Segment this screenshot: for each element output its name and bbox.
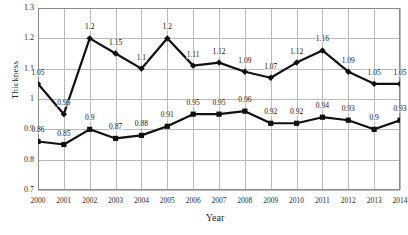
data-point-label: 1.15 bbox=[109, 39, 123, 47]
data-point-label: 0.91 bbox=[160, 111, 174, 119]
data-point-label: 0.92 bbox=[290, 108, 304, 116]
x-axis-tick-label: 2014 bbox=[393, 197, 408, 205]
data-point-label: 0.88 bbox=[134, 120, 148, 128]
y-axis-tick-label: 1 bbox=[30, 95, 34, 103]
data-point-label: 1.16 bbox=[315, 35, 329, 43]
thickness-by-year-line-chart: Thickness 0.70.80.911.11.21.320002001200… bbox=[0, 0, 408, 235]
x-axis-tick-label: 2000 bbox=[31, 197, 46, 205]
x-axis-tick-label: 2009 bbox=[263, 197, 278, 205]
data-point-label: 1.2 bbox=[162, 23, 172, 31]
data-point-label: 1.05 bbox=[393, 69, 407, 77]
data-point-label: 1.1 bbox=[136, 54, 146, 62]
data-point-label: 0.87 bbox=[109, 123, 123, 131]
data-point-label: 0.95 bbox=[186, 99, 200, 107]
data-point-label: 1.05 bbox=[31, 69, 45, 77]
data-point-label: 0.92 bbox=[264, 108, 278, 116]
y-axis-tick-label: 0.8 bbox=[24, 156, 34, 164]
data-point-label: 1.05 bbox=[367, 69, 381, 77]
data-point-label: 0.95 bbox=[212, 99, 226, 107]
x-axis-tick-label: 2013 bbox=[367, 197, 382, 205]
x-axis-tick-label: 2004 bbox=[134, 197, 149, 205]
data-point-label: 1.12 bbox=[290, 48, 304, 56]
plot-area: 0.70.80.911.11.21.3200020012002200320042… bbox=[38, 8, 400, 190]
data-point-label: 1.09 bbox=[238, 57, 252, 65]
x-axis-tick-label: 2008 bbox=[237, 197, 252, 205]
y-axis-tick-label: 1.2 bbox=[24, 34, 34, 42]
data-point-label: 0.93 bbox=[341, 105, 355, 113]
x-axis-tick-label: 2011 bbox=[315, 197, 330, 205]
y-axis-tick-label: 1.3 bbox=[24, 4, 34, 12]
data-point-label: 0.95 bbox=[57, 99, 71, 107]
gridline-horizontal bbox=[38, 190, 400, 191]
x-axis-tick-label: 2007 bbox=[212, 197, 227, 205]
data-point-label: 1.2 bbox=[85, 23, 95, 31]
data-point-label: 0.9 bbox=[85, 114, 95, 122]
data-point-label: 0.9 bbox=[369, 114, 379, 122]
x-axis-tick-label: 2003 bbox=[108, 197, 123, 205]
data-point-label: 1.12 bbox=[212, 48, 226, 56]
data-point-label: 0.93 bbox=[393, 105, 407, 113]
x-axis-tick-label: 2001 bbox=[56, 197, 71, 205]
data-point-label: 0.86 bbox=[31, 126, 45, 134]
x-axis-title: Year bbox=[30, 212, 400, 223]
data-point-label: 1.07 bbox=[264, 63, 278, 71]
x-axis-tick-label: 2012 bbox=[341, 197, 356, 205]
data-point-label: 0.96 bbox=[238, 96, 252, 104]
data-point-label: 1.11 bbox=[186, 51, 200, 59]
x-axis-tick-label: 2010 bbox=[289, 197, 304, 205]
data-point-label: 0.85 bbox=[57, 130, 71, 138]
data-point-label: 1.09 bbox=[341, 57, 355, 65]
y-axis-title: Thickness bbox=[10, 35, 20, 125]
data-point-label: 0.94 bbox=[315, 102, 329, 110]
x-axis-tick-label: 2006 bbox=[186, 197, 201, 205]
x-axis-tick-label: 2002 bbox=[82, 197, 97, 205]
y-axis-tick-label: 0.7 bbox=[24, 186, 34, 194]
x-axis-tick-label: 2005 bbox=[160, 197, 175, 205]
data-label-layer: 1.050.951.21.151.11.21.111.121.091.071.1… bbox=[38, 8, 400, 190]
gridline-vertical bbox=[400, 8, 401, 190]
